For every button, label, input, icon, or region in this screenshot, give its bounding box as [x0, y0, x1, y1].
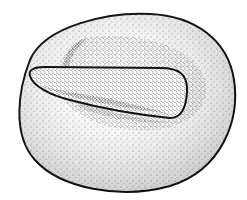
- illustration: stone mortar with pestle (stippled drawi…: [0, 0, 247, 200]
- mortar-pestle-drawing: [0, 0, 247, 200]
